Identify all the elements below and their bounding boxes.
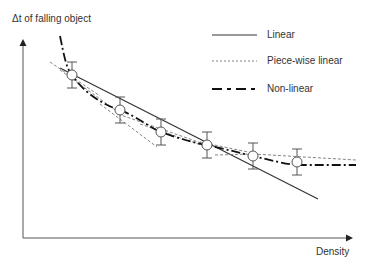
- data-point: [292, 149, 302, 175]
- x-axis-label: Density: [316, 246, 349, 257]
- data-point: [156, 119, 166, 145]
- legend-nonlinear-label: Non-linear: [267, 83, 313, 94]
- legend-piecewise-label: Piece-wise linear: [267, 55, 343, 66]
- data-point: [67, 62, 77, 88]
- y-axis-label: Δt of falling object: [12, 13, 91, 24]
- data-point: [248, 143, 258, 169]
- data-point: [202, 132, 212, 158]
- y-axis-arrow-icon: [20, 39, 27, 46]
- data-points: [67, 62, 302, 175]
- x-axis-arrow-icon: [346, 235, 353, 242]
- chart-canvas: [0, 0, 368, 272]
- legend-linear-label: Linear: [267, 29, 295, 40]
